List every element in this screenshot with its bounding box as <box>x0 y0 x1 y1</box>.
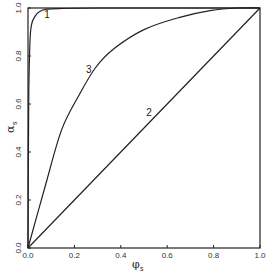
y-tick-label: 0.6 <box>14 98 23 110</box>
x-tick-label: 0.6 <box>162 251 174 260</box>
x-axis-label: φ s <box>132 258 144 272</box>
svg-text:φ: φ <box>132 258 140 271</box>
y-tick-label: 0.2 <box>14 194 23 206</box>
y-tick-label: 0.0 <box>14 242 23 254</box>
curve-label-1: 1 <box>44 9 50 20</box>
x-tick-label: 0.4 <box>115 251 127 260</box>
svg-text:α: α <box>4 125 17 133</box>
x-tick-label: 0.8 <box>208 251 220 260</box>
svg-text:s: s <box>140 265 144 272</box>
y-tick-label: 1.0 <box>14 2 23 14</box>
curves <box>28 8 260 248</box>
y-axis-label: α s <box>4 121 18 133</box>
x-tick-label: 0.2 <box>69 251 81 260</box>
y-tick-label: 0.4 <box>14 146 23 158</box>
x-tick-label: 0.0 <box>22 251 34 260</box>
curve-label-2: 2 <box>146 107 152 118</box>
x-tick-label: 1.0 <box>254 251 266 260</box>
curve-label-3: 3 <box>86 64 92 75</box>
chart: 0.00.20.40.60.81.00.00.20.40.60.81.0 123… <box>0 0 268 275</box>
y-tick-label: 0.8 <box>14 50 23 62</box>
svg-text:s: s <box>11 121 18 125</box>
